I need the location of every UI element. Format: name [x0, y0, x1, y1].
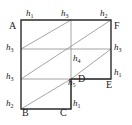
segment-label-center: h4: [73, 54, 81, 63]
segment-label-top-right: h2: [100, 9, 108, 18]
diagonal-bottom-left: [21, 79, 71, 109]
vertex-label-D: D: [78, 74, 85, 84]
segment-label-d-corner: h5: [68, 78, 76, 87]
grid-lines: [21, 20, 111, 109]
diagram-canvas: A F E D C B h1 h3 h2 h3 h3 h4 h3 h1 h5 h…: [0, 0, 132, 125]
segment-label-left-lower: h3: [6, 72, 14, 81]
diagonal-long-lower: [21, 20, 111, 79]
segment-label-right-lower: h1: [114, 68, 122, 77]
vertex-label-F: F: [114, 21, 120, 31]
segment-label-bottom-right: h1: [73, 99, 81, 108]
vertex-label-B: B: [22, 108, 29, 118]
segment-label-top-middle: h3: [61, 9, 69, 18]
polygon-outline: [21, 20, 111, 109]
diagonal-lines: [21, 20, 111, 109]
segment-label-left-upper: h3: [6, 43, 14, 52]
segment-label-top-left: h1: [26, 9, 34, 18]
vertex-label-A: A: [9, 21, 16, 31]
segment-label-bottom-left: h2: [6, 99, 14, 108]
vertex-label-C: C: [60, 108, 67, 118]
segment-label-right-upper: h3: [114, 43, 122, 52]
diagonal-upper-left: [21, 20, 71, 49]
vertex-label-E: E: [106, 80, 112, 90]
